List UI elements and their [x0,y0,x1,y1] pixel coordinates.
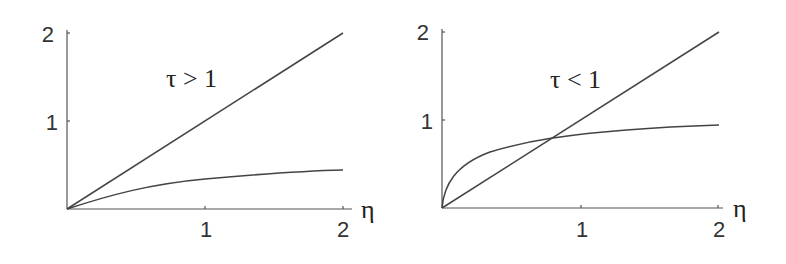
right-x-tick-label-2: 2 [713,217,725,242]
left-panel: 2 1 1 2 η τ > 1 [42,22,375,242]
left-line-series [67,33,343,209]
left-y-tick-label-1: 1 [46,110,58,135]
right-sqrt-series [442,125,719,208]
left-x-tick-label-1: 1 [200,217,212,242]
left-x-tick-label-2: 2 [337,217,349,242]
figure: 2 1 1 2 η τ > 1 2 1 1 2 η τ < 1 [0,0,786,264]
right-line-series [442,32,719,208]
right-annotation: τ < 1 [550,65,601,94]
right-y-tick-label-2: 2 [417,20,429,45]
right-y-tick-label-1: 1 [421,109,433,134]
left-x-axis-label: η [361,195,375,224]
left-y-tick-label-2: 2 [42,22,54,47]
right-panel: 2 1 1 2 η τ < 1 [417,20,747,242]
right-x-axis-label: η [733,194,747,223]
right-x-tick-label-1: 1 [576,217,588,242]
left-saturating-series [67,170,343,209]
left-annotation: τ > 1 [166,64,217,93]
